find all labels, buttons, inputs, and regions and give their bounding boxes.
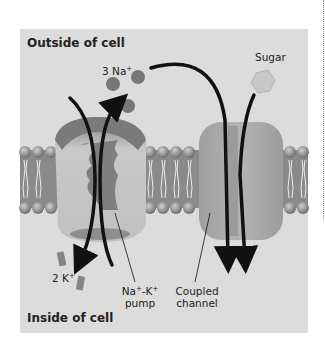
potassium-ions-label: 2 K+ [52,272,75,284]
sugar-molecule [251,70,275,93]
outside-of-cell-label: Outside of cell [27,37,125,49]
channel-label: Coupled channel [172,285,222,309]
pump-label: Na+-K+ pump [120,285,160,309]
sodium-ions-label: 3 Na+ [102,65,132,77]
inside-of-cell-label: Inside of cell [27,312,113,324]
sugar-label: Sugar [255,51,286,63]
